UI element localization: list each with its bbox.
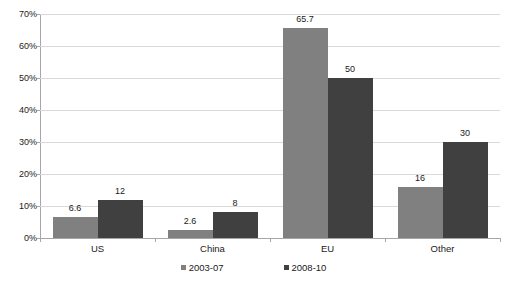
bar-value-label: 65.7 xyxy=(296,15,314,24)
bar-value-label: 12 xyxy=(115,187,125,196)
bar-group: 6.612 xyxy=(40,14,155,238)
bar: 65.7 xyxy=(283,28,328,238)
bar: 6.6 xyxy=(53,217,98,238)
legend-swatch-icon xyxy=(284,265,289,270)
y-axis-tick-label: 70% xyxy=(3,10,37,19)
y-axis-tick-label: 40% xyxy=(3,106,37,115)
bar-group: 65.750 xyxy=(270,14,385,238)
x-axis-category-label: China xyxy=(155,243,270,254)
x-axis-category-label: Other xyxy=(385,243,500,254)
x-axis-tick-mark xyxy=(155,238,156,242)
y-axis-tick-label: 60% xyxy=(3,42,37,51)
bar-pair: 2.68 xyxy=(155,14,270,238)
bar-value-label: 16 xyxy=(415,174,425,183)
chart-legend: 2003-072008-10 xyxy=(0,262,507,273)
bar-pair: 1630 xyxy=(385,14,500,238)
bar-value-label: 30 xyxy=(460,129,470,138)
bar-chart: 0%10%20%30%40%50%60%70% 6.6122.6865.7501… xyxy=(0,0,507,283)
bar: 12 xyxy=(98,200,143,238)
bar-pair: 65.750 xyxy=(270,14,385,238)
y-axis-tick-label: 0% xyxy=(3,234,37,243)
x-axis-tick-mark xyxy=(500,238,501,242)
y-axis-tick-label: 20% xyxy=(3,170,37,179)
y-axis-tick-label: 50% xyxy=(3,74,37,83)
x-axis-category-label: US xyxy=(40,243,155,254)
bar-value-label: 50 xyxy=(345,65,355,74)
legend-item[interactable]: 2008-10 xyxy=(284,262,327,273)
legend-item[interactable]: 2003-07 xyxy=(181,262,224,273)
legend-label: 2008-10 xyxy=(292,262,327,273)
bar: 50 xyxy=(328,78,373,238)
bar-value-label: 8 xyxy=(232,199,237,208)
bar: 30 xyxy=(443,142,488,238)
bar: 2.6 xyxy=(168,230,213,238)
x-axis-tick-mark xyxy=(385,238,386,242)
x-axis-category-label: EU xyxy=(270,243,385,254)
legend-label: 2003-07 xyxy=(189,262,224,273)
y-axis: 0%10%20%30%40%50%60%70% xyxy=(0,14,37,238)
plot-area: 6.6122.6865.7501630 xyxy=(40,14,500,238)
bar-pair: 6.612 xyxy=(40,14,155,238)
x-axis-tick-mark xyxy=(40,238,41,242)
y-axis-tick-label: 10% xyxy=(3,202,37,211)
bar: 8 xyxy=(213,212,258,238)
y-axis-tick-label: 30% xyxy=(3,138,37,147)
bar: 16 xyxy=(398,187,443,238)
bar-value-label: 6.6 xyxy=(69,204,82,213)
legend-swatch-icon xyxy=(181,265,186,270)
bar-group: 1630 xyxy=(385,14,500,238)
bar-group: 2.68 xyxy=(155,14,270,238)
bar-value-label: 2.6 xyxy=(184,217,197,226)
x-axis-tick-mark xyxy=(270,238,271,242)
